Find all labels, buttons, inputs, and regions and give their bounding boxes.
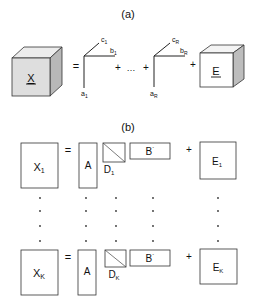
diagonal-matrix-dk-label: DK (108, 269, 119, 281)
panel-b-title: (b) (121, 121, 134, 133)
matrix-a-label-row-1: A (85, 160, 92, 171)
row-1-plus: + (186, 144, 192, 155)
slice-row-k: XK = A DK B´ + EK (21, 249, 237, 295)
label-cR: cR (172, 36, 180, 45)
panel-a-plus-3: + (190, 59, 196, 70)
label-bR: bR (180, 47, 188, 56)
error-e-label: E (212, 65, 219, 77)
tensor-x-cube: X (12, 47, 62, 96)
panel-a-plus-2: + (143, 62, 149, 73)
rank-one-term-r: cR bR aR (150, 36, 188, 99)
row-1-equals: = (65, 144, 71, 156)
error-e-cube: E (200, 45, 244, 87)
label-b1: b1 (110, 47, 117, 56)
panel-a-title: (a) (121, 8, 134, 20)
row-k-plus: + (186, 251, 192, 262)
panel-a-ellipsis: … (127, 63, 136, 73)
label-c1: c1 (101, 36, 108, 45)
row-k-equals: = (65, 251, 71, 263)
parafac-diagram: (a) X = c1 b1 a1 + … + cR bR aR + E (b) (0, 0, 255, 305)
ellipsis-dots (39, 197, 219, 242)
rank-one-term-1: c1 b1 a1 (81, 36, 117, 99)
tensor-x-label: X (27, 72, 35, 84)
vector-c1 (84, 43, 99, 56)
label-a1: a1 (81, 90, 88, 99)
slice-row-1: X1 = A D1 B´ + E1 (21, 142, 236, 188)
panel-a-plus-1: + (115, 62, 121, 73)
diagonal-matrix-d1-label: D1 (104, 164, 115, 176)
vector-cR (154, 43, 170, 56)
label-aR: aR (150, 90, 158, 99)
panel-a-equals: = (73, 60, 79, 72)
matrix-a-label-row-k: A (84, 266, 91, 277)
